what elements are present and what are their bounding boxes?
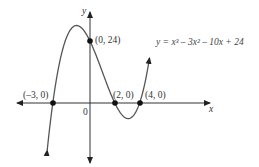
point-label-0-24: (0, 24) bbox=[95, 36, 120, 46]
x-axis-label: x bbox=[209, 105, 213, 115]
point-label-neg3-0: (–3, 0) bbox=[23, 91, 48, 101]
equation-label: y = x³ – 3x² – 10x + 24 bbox=[156, 38, 244, 48]
y-axis-label: y bbox=[82, 7, 86, 17]
point-4-0 bbox=[137, 100, 143, 106]
plot-canvas bbox=[0, 0, 259, 167]
point-label-4-0: (4, 0) bbox=[145, 91, 166, 101]
point-label-2-0: (2, 0) bbox=[113, 91, 134, 101]
point-2-0 bbox=[112, 100, 118, 106]
point-0-24 bbox=[87, 38, 93, 44]
origin-label: 0 bbox=[83, 108, 88, 118]
point-neg3-0 bbox=[50, 100, 56, 106]
